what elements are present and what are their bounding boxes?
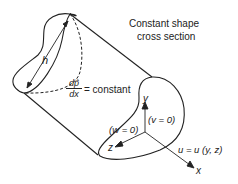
axis-z-label: z (108, 142, 113, 153)
pressure-gradient-rhs: = constant (84, 84, 130, 95)
velocity-label: u = u (y, z) (178, 144, 222, 155)
fraction-denominator: dx (69, 89, 79, 99)
title-line1: Constant shape (129, 18, 199, 29)
title-line2: cross section (137, 31, 195, 42)
axis-y-label: y (143, 93, 148, 104)
fraction-numerator: dp̂ (69, 78, 79, 88)
w-condition-label: (w = 0) (109, 124, 138, 135)
pressure-gradient-fraction: dp̂ dx (65, 78, 83, 99)
height-label: h (42, 55, 48, 66)
bottom-edge (24, 93, 98, 155)
axis-x-label: x (196, 165, 201, 176)
v-condition-label: (v = 0) (148, 114, 175, 125)
